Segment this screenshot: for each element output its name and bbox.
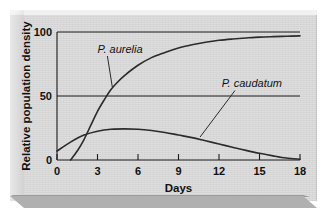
chart-background — [24, 15, 317, 201]
frame-right-edge — [316, 15, 317, 201]
figure-container: 0 3 6 9 12 15 18 0 50 100 Days Relative … — [0, 0, 327, 216]
frame-bottom-bevel — [10, 196, 317, 208]
frame-left-bevel — [10, 15, 24, 201]
beveled-frame — [10, 10, 317, 208]
